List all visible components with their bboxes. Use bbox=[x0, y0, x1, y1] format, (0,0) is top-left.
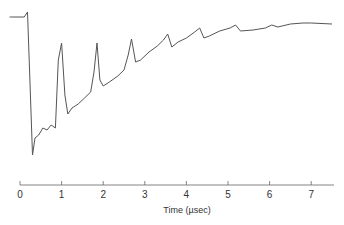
x-tick-label: 2 bbox=[100, 189, 106, 200]
x-tick-label: 3 bbox=[142, 189, 148, 200]
x-tick-label: 6 bbox=[267, 189, 273, 200]
x-tick-label: 4 bbox=[184, 189, 190, 200]
chart: 01234567 Time (µsec) bbox=[0, 0, 344, 225]
x-tick-label: 1 bbox=[59, 189, 65, 200]
signal-line bbox=[10, 12, 332, 155]
x-axis-label: Time (µsec) bbox=[163, 205, 210, 215]
x-tick-label: 7 bbox=[308, 189, 314, 200]
x-axis-ticks: 01234567 bbox=[17, 181, 314, 200]
x-tick-label: 5 bbox=[225, 189, 231, 200]
x-tick-label: 0 bbox=[17, 189, 23, 200]
